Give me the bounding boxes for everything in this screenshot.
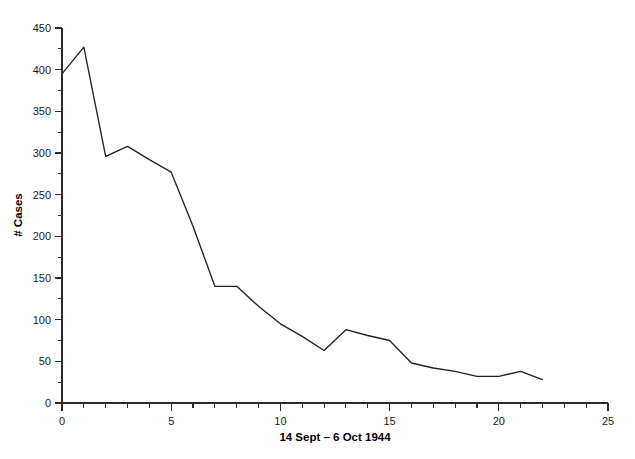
- x-tick-label: 20: [493, 415, 505, 427]
- y-tick-label: 150: [33, 272, 51, 284]
- y-tick-label: 50: [39, 355, 51, 367]
- y-tick-label: 350: [33, 105, 51, 117]
- y-tick-label: 0: [45, 397, 51, 409]
- y-tick-label: 400: [33, 64, 51, 76]
- y-tick-label: 450: [33, 22, 51, 34]
- line-chart-plot: 050100150200250300350400450 0510152025 1…: [0, 0, 635, 459]
- chart-figure: 050100150200250300350400450 0510152025 1…: [0, 0, 635, 459]
- x-tick-label: 5: [168, 415, 174, 427]
- y-tick-label: 100: [33, 314, 51, 326]
- y-tick-label: 300: [33, 147, 51, 159]
- chart-background: [0, 0, 635, 459]
- x-tick-label: 10: [274, 415, 286, 427]
- x-tick-label: 25: [602, 415, 614, 427]
- y-axis-title: # Cases: [12, 193, 24, 236]
- y-tick-label: 200: [33, 230, 51, 242]
- x-tick-label: 15: [383, 415, 395, 427]
- x-axis-title: 14 Sept – 6 Oct 1944: [279, 431, 391, 443]
- y-tick-label: 250: [33, 189, 51, 201]
- x-tick-label: 0: [59, 415, 65, 427]
